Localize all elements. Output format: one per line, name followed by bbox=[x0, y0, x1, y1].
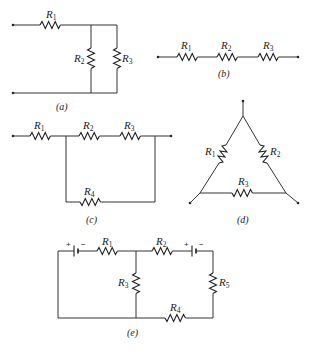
resistor-e-r5 bbox=[210, 273, 217, 293]
caption-d: (d) bbox=[237, 214, 249, 226]
label-a-r2: R2 bbox=[73, 52, 85, 66]
circuit-e: + − + − R1 R2 R3 R4 R5 (e) bbox=[58, 235, 230, 339]
battery-e-1-minus: − bbox=[81, 240, 86, 249]
resistor-c-r3 bbox=[120, 133, 141, 140]
caption-e: (e) bbox=[127, 327, 139, 339]
resistor-e-r4 bbox=[165, 315, 186, 322]
circuit-c: R1 R2 R3 R4 (c) bbox=[12, 119, 173, 226]
label-b-r3: R3 bbox=[262, 39, 274, 53]
caption-c: (c) bbox=[86, 214, 98, 226]
label-d-r1: R1 bbox=[204, 145, 216, 159]
battery-e-2-plus: + bbox=[184, 240, 189, 249]
resistor-e-r1 bbox=[97, 248, 118, 255]
battery-e-2-minus: − bbox=[199, 240, 204, 249]
label-a-r3: R3 bbox=[121, 52, 133, 66]
circuit-a: R1 R2 R3 (a) bbox=[12, 8, 133, 113]
label-d-r3: R3 bbox=[237, 175, 249, 189]
resistor-a-r3 bbox=[114, 48, 121, 69]
resistor-c-r4 bbox=[80, 199, 101, 206]
label-b-r1: R1 bbox=[180, 39, 192, 53]
resistor-d-r2 bbox=[259, 145, 268, 163]
resistor-c-r1 bbox=[30, 133, 50, 140]
battery-e-1-plus: + bbox=[66, 240, 71, 249]
label-a-r1: R1 bbox=[45, 8, 57, 22]
resistor-b-r2 bbox=[217, 54, 238, 61]
circuit-b: R1 R2 R3 (b) bbox=[157, 39, 300, 80]
label-e-r5: R5 bbox=[218, 276, 230, 290]
label-c-r4: R4 bbox=[83, 185, 95, 199]
resistor-e-r3 bbox=[133, 273, 140, 293]
label-c-r3: R3 bbox=[123, 119, 135, 133]
label-c-r1: R1 bbox=[33, 119, 45, 133]
caption-b: (b) bbox=[218, 68, 230, 80]
battery-e-2 bbox=[192, 246, 196, 257]
resistor-c-r2 bbox=[79, 133, 100, 140]
circuit-diagrams-figure: R1 R2 R3 (a) R1 R2 R3 (b) R1 R2 R3 R bbox=[0, 0, 309, 351]
label-c-r2: R2 bbox=[82, 119, 94, 133]
label-e-r4: R4 bbox=[169, 301, 181, 315]
label-e-r1: R1 bbox=[101, 235, 113, 249]
label-e-r2: R2 bbox=[155, 235, 167, 249]
resistor-d-r1 bbox=[218, 145, 227, 163]
resistor-d-r3 bbox=[232, 190, 253, 197]
battery-e-1 bbox=[74, 246, 78, 257]
resistor-a-r1 bbox=[40, 22, 60, 29]
resistor-a-r2 bbox=[88, 48, 95, 69]
circuit-d: R1 R2 R3 (d) bbox=[189, 100, 300, 226]
resistor-b-r3 bbox=[258, 54, 278, 61]
label-d-r2: R2 bbox=[269, 145, 281, 159]
label-e-r3: R3 bbox=[117, 276, 129, 290]
label-b-r2: R2 bbox=[220, 39, 232, 53]
resistor-b-r1 bbox=[177, 54, 198, 61]
caption-a: (a) bbox=[56, 101, 68, 113]
